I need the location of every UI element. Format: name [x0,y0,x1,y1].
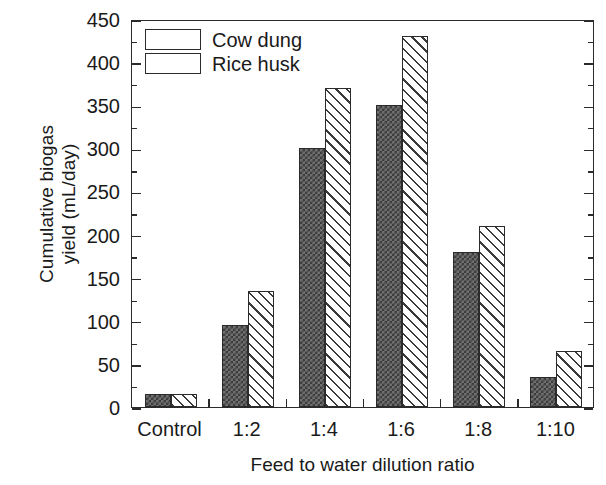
legend-label-cow-dung: Cow dung [212,30,302,50]
y-axis-tick-label: 250 [62,182,120,202]
legend-swatch-cow-dung [145,29,201,50]
plot-area: Cow dung Rice husk [131,20,594,408]
x-axis-tick-label: 1:8 [464,419,492,439]
x-axis-tick-labels: Control1:21:41:61:81:10 [131,419,594,445]
x-axis-tick-label: 1:10 [536,419,575,439]
y-axis-tick-label: 350 [62,96,120,116]
y-axis-tick-label: 100 [62,312,120,332]
y-axis-tick-labels: 050100150200250300350400450 [62,0,120,485]
x-axis-tick-label: 1:2 [233,419,261,439]
bar [556,351,582,407]
y-axis-tick-label: 400 [62,53,120,73]
legend-item-cow-dung: Cow dung [145,29,302,50]
y-axis-tick-label: 200 [62,226,120,246]
bar [530,377,556,407]
y-axis-tick-label: 0 [62,398,120,418]
bar-group [132,21,593,407]
legend-item-rice-husk: Rice husk [145,53,302,74]
x-axis-tick-label: 1:6 [387,419,415,439]
x-axis-tick-label: 1:4 [310,419,338,439]
y-tick-mark [584,408,593,409]
biogas-yield-bar-chart: Cumulative biogas yield (mL/day) 0501001… [0,0,606,485]
chart-legend: Cow dung Rice husk [145,29,302,74]
y-axis-title-line-1: Cumulative biogas [36,125,58,283]
y-tick-mark [132,408,141,409]
y-axis-tick-label: 450 [62,10,120,30]
y-axis-tick-label: 150 [62,269,120,289]
legend-label-rice-husk: Rice husk [212,54,300,74]
y-axis-tick-label: 300 [62,139,120,159]
y-axis-tick-label: 50 [62,355,120,375]
x-axis-title: Feed to water dilution ratio [131,455,594,474]
x-axis-tick-label: Control [137,419,201,439]
legend-swatch-rice-husk [145,53,201,74]
